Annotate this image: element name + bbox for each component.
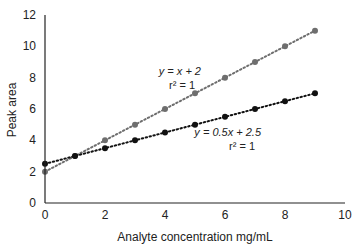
- equation-annotations: y = x + 2r² = 1y = 0.5x + 2.5r² = 1: [158, 65, 262, 152]
- x-tick-label: 10: [338, 208, 352, 222]
- data-point: [132, 122, 138, 128]
- x-tick-label: 8: [282, 208, 289, 222]
- data-point: [102, 137, 108, 143]
- data-point: [312, 28, 318, 34]
- y-tick-label: 0: [29, 196, 36, 210]
- x-tick-labels: 0246810: [42, 208, 352, 222]
- y-tick-label: 12: [23, 8, 37, 22]
- x-tick-label: 6: [222, 208, 229, 222]
- y-tick-label: 6: [29, 102, 36, 116]
- y-tick-label: 2: [29, 165, 36, 179]
- x-axis-label: Analyte concentration mg/mL: [117, 230, 273, 244]
- data-point: [252, 59, 258, 65]
- data-point: [132, 137, 138, 143]
- data-point: [222, 114, 228, 120]
- data-point: [102, 145, 108, 151]
- x-tick-label: 0: [42, 208, 49, 222]
- r-squared-label: r² = 1: [169, 79, 195, 91]
- equation-label: y = 0.5x + 2.5: [193, 126, 262, 138]
- r-squared-label: r² = 1: [229, 140, 255, 152]
- y-tick-label: 4: [29, 133, 36, 147]
- x-tick-label: 4: [162, 208, 169, 222]
- y-tick-label: 10: [23, 39, 37, 53]
- data-point: [162, 106, 168, 112]
- x-tick-label: 2: [102, 208, 109, 222]
- y-tick-label: 8: [29, 71, 36, 85]
- trend-line: [45, 93, 315, 163]
- data-point: [192, 90, 198, 96]
- y-axis: 024681012 Peak area: [5, 8, 45, 210]
- y-tick-labels: 024681012: [23, 8, 37, 210]
- data-point: [312, 90, 318, 96]
- data-point: [222, 75, 228, 81]
- data-point: [162, 130, 168, 136]
- calibration-chart: 024681012 Peak area 0246810 Analyte conc…: [0, 0, 363, 249]
- y-axis-label: Peak area: [5, 82, 19, 137]
- data-point: [282, 98, 288, 104]
- x-axis: 0246810 Analyte concentration mg/mL: [42, 203, 352, 244]
- equation-label: y = x + 2: [158, 65, 201, 77]
- data-point: [252, 106, 258, 112]
- plot-series: [42, 28, 318, 175]
- data-point: [72, 153, 78, 159]
- trend-line: [45, 31, 315, 172]
- data-point: [282, 43, 288, 49]
